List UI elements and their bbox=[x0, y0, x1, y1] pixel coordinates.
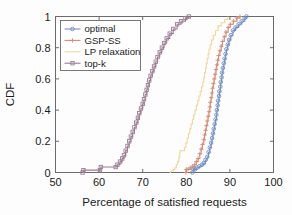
x-tick-label: 100 bbox=[264, 176, 282, 188]
legend-label: optimal bbox=[85, 23, 116, 34]
x-tick-label: 60 bbox=[93, 176, 105, 188]
series-optimal bbox=[191, 15, 249, 175]
x-tick-label: 70 bbox=[137, 176, 149, 188]
y-tick-label: 0.4 bbox=[35, 104, 50, 116]
y-tick-label: 0.8 bbox=[35, 42, 50, 54]
legend: optimalGSP-SSLP relaxationtop-k bbox=[61, 21, 141, 71]
legend-label: GSP-SS bbox=[85, 35, 121, 46]
y-tick-label: 1 bbox=[44, 11, 50, 23]
cdf-chart-figure: 506070809010000.20.40.60.81Percentage of… bbox=[0, 0, 292, 215]
x-tick-label: 50 bbox=[49, 176, 61, 188]
x-tick-label: 90 bbox=[224, 176, 236, 188]
x-tick-label: 80 bbox=[180, 176, 192, 188]
legend-label: top-k bbox=[85, 58, 107, 69]
y-tick-label: 0.2 bbox=[35, 135, 50, 147]
y-axis-title: CDF bbox=[4, 83, 16, 107]
x-axis-title: Percentage of satisfied requests bbox=[82, 196, 247, 208]
y-tick-label: 0.6 bbox=[35, 73, 50, 85]
legend-label: LP relaxation bbox=[85, 46, 141, 57]
y-tick-label: 0 bbox=[44, 167, 50, 179]
chart-canvas: 506070809010000.20.40.60.81Percentage of… bbox=[0, 0, 292, 215]
